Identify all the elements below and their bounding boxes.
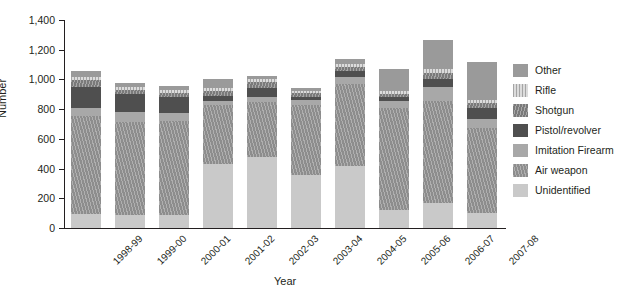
legend-item-rifle[interactable]: Rifle — [513, 80, 618, 100]
bar-segment-rifle — [247, 79, 277, 82]
y-tick-label: 600 — [0, 133, 55, 145]
bar-segment-imitation-firearm — [467, 119, 497, 128]
bar-segment-rifle — [203, 88, 233, 91]
legend-label: Other — [535, 65, 561, 76]
bar-2007-08[interactable] — [467, 62, 497, 228]
x-tick-label-2005-06: 2005-06 — [419, 233, 453, 267]
bar-segment-rifle — [159, 90, 189, 93]
legend-item-pistol-revolver[interactable]: Pistol/revolver — [513, 120, 618, 140]
bar-segment-imitation-firearm — [335, 77, 365, 84]
bar-segment-pistol-revolver — [467, 108, 497, 118]
x-tick-label-1998-99: 1998-99 — [111, 233, 145, 267]
y-tick-label: 1,000 — [0, 73, 55, 85]
bar-segment-air-weapon — [379, 108, 409, 211]
bar-segment-shotgun — [467, 103, 497, 108]
bar-segment-pistol-revolver — [203, 96, 233, 101]
bar-1999-00[interactable] — [115, 83, 145, 228]
y-tick-label: 1,400 — [0, 14, 55, 26]
bar-2000-01[interactable] — [159, 86, 189, 228]
legend-item-shotgun[interactable]: Shotgun — [513, 100, 618, 120]
bar-segment-other — [379, 69, 409, 91]
bar-segment-other — [291, 88, 321, 91]
bar-segment-pistol-revolver — [379, 97, 409, 101]
bar-segment-air-weapon — [467, 128, 497, 213]
bar-segment-air-weapon — [115, 122, 145, 215]
bar-2005-06[interactable] — [379, 69, 409, 228]
bar-segment-unidentified — [423, 203, 453, 228]
bar-segment-pistol-revolver — [291, 97, 321, 100]
bar-segment-other — [203, 79, 233, 89]
bar-segment-other — [423, 40, 453, 69]
x-tick-label-2002-03: 2002-03 — [287, 233, 321, 267]
x-tick-label-2003-04: 2003-04 — [331, 233, 365, 267]
bar-segment-pistol-revolver — [71, 87, 101, 109]
y-tick-label: 800 — [0, 103, 55, 115]
bar-segment-shotgun — [203, 91, 233, 95]
bar-segment-shotgun — [159, 93, 189, 97]
bar-segment-shotgun — [115, 90, 145, 94]
legend-swatch-icon — [513, 104, 528, 117]
bar-segment-imitation-firearm — [71, 108, 101, 115]
bar-segment-imitation-firearm — [115, 112, 145, 122]
legend-label: Imitation Firearm — [535, 145, 614, 156]
y-tick-label: 1,200 — [0, 44, 55, 56]
bar-segment-pistol-revolver — [247, 88, 277, 97]
y-axis-label: Number — [0, 79, 8, 118]
x-tick-label-2007-08: 2007-08 — [507, 233, 541, 267]
bar-segment-unidentified — [159, 215, 189, 228]
bar-segment-other — [467, 62, 497, 101]
bar-segment-other — [335, 59, 365, 64]
bar-segment-unidentified — [379, 210, 409, 228]
bar-segment-shotgun — [423, 73, 453, 79]
bar-2002-03[interactable] — [247, 76, 277, 228]
bar-segment-imitation-firearm — [203, 101, 233, 105]
bar-segment-shotgun — [247, 82, 277, 87]
bar-segment-rifle — [115, 87, 145, 90]
bar-segment-unidentified — [247, 157, 277, 228]
bar-segment-rifle — [379, 91, 409, 93]
x-tick-label-2004-05: 2004-05 — [375, 233, 409, 267]
x-tick-label-2001-02: 2001-02 — [243, 233, 277, 267]
bar-2006-07[interactable] — [423, 40, 453, 228]
legend-label: Rifle — [535, 85, 556, 96]
bar-segment-rifle — [423, 69, 453, 73]
bar-segment-pistol-revolver — [423, 79, 453, 87]
bar-segment-imitation-firearm — [247, 97, 277, 103]
legend-item-unidentified[interactable]: Unidentified — [513, 180, 618, 200]
bar-segment-imitation-firearm — [423, 87, 453, 101]
legend-item-other[interactable]: Other — [513, 60, 618, 80]
bar-segment-imitation-firearm — [159, 113, 189, 121]
bar-segment-shotgun — [71, 80, 101, 87]
bar-segment-shotgun — [379, 94, 409, 98]
plot-area — [64, 20, 504, 228]
bar-2003-04[interactable] — [291, 88, 321, 228]
bar-segment-air-weapon — [423, 101, 453, 203]
bar-segment-air-weapon — [247, 102, 277, 156]
legend-swatch-icon — [513, 144, 528, 157]
legend-swatch-icon — [513, 64, 528, 77]
legend-label: Pistol/revolver — [535, 125, 601, 136]
bar-segment-air-weapon — [291, 105, 321, 175]
y-tick-label: 400 — [0, 163, 55, 175]
bar-1998-99[interactable] — [71, 71, 101, 228]
legend-label: Unidentified — [535, 185, 590, 196]
bar-segment-other — [159, 86, 189, 90]
bar-segment-air-weapon — [159, 121, 189, 215]
bar-segment-shotgun — [291, 93, 321, 97]
bar-segment-air-weapon — [335, 84, 365, 166]
legend-item-imitation-firearm[interactable]: Imitation Firearm — [513, 140, 618, 160]
bar-2004-05[interactable] — [335, 59, 365, 228]
bar-segment-imitation-firearm — [291, 100, 321, 105]
bar-segment-rifle — [71, 77, 101, 80]
legend-item-air-weapon[interactable]: Air weapon — [513, 160, 618, 180]
bar-segment-other — [115, 83, 145, 87]
bar-2001-02[interactable] — [203, 79, 233, 228]
bar-segment-imitation-firearm — [379, 101, 409, 108]
bar-segment-pistol-revolver — [335, 71, 365, 77]
stacked-bar-chart: 02004006008001,0001,2001,400 Number Year… — [0, 0, 621, 300]
bar-segment-unidentified — [203, 164, 233, 228]
bar-segment-pistol-revolver — [159, 97, 189, 113]
legend-label: Air weapon — [535, 165, 588, 176]
legend-swatch-icon — [513, 84, 528, 97]
bar-segment-unidentified — [291, 175, 321, 228]
